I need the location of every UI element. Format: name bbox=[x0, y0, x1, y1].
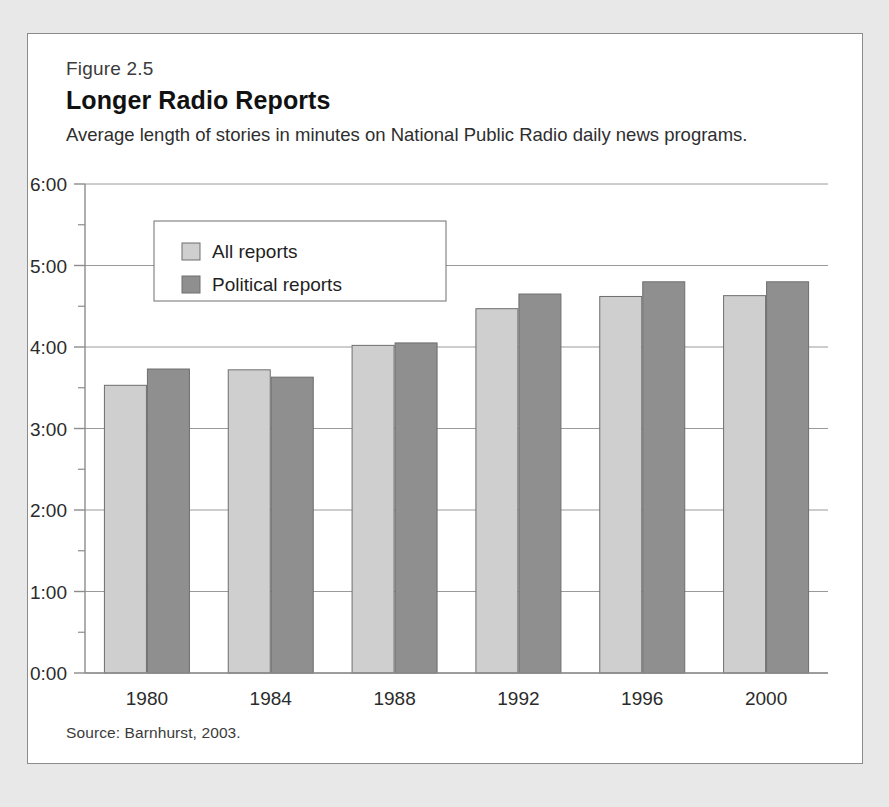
y-axis-tick-labels: 0:001:002:003:004:005:006:00 bbox=[30, 174, 67, 684]
legend-swatch bbox=[182, 243, 200, 260]
source-note: Source: Barnhurst, 2003. bbox=[66, 724, 241, 742]
y-axis-tick-label: 0:00 bbox=[30, 663, 67, 684]
x-axis-tick-labels: 198019841988199219962000 bbox=[126, 688, 787, 709]
x-axis-tick-label: 1992 bbox=[497, 688, 539, 709]
x-axis-tick-label: 1980 bbox=[126, 688, 168, 709]
bar-1992-political-reports bbox=[519, 294, 561, 673]
x-axis-tick-label: 2000 bbox=[745, 688, 787, 709]
x-axis-tick-label: 1988 bbox=[373, 688, 415, 709]
y-axis-tick-label: 2:00 bbox=[30, 500, 67, 521]
y-axis-tick-label: 4:00 bbox=[30, 337, 67, 358]
chart-legend: All reportsPolitical reports bbox=[154, 221, 446, 301]
bar-chart: 0:001:002:003:004:005:006:00 19801984198… bbox=[28, 34, 864, 765]
y-axis-tick-label: 5:00 bbox=[30, 256, 67, 277]
y-axis-major-ticks bbox=[74, 184, 85, 673]
bar-1992-all-reports bbox=[476, 309, 518, 673]
bar-1984-political-reports bbox=[271, 377, 313, 673]
x-axis-tick-label: 1984 bbox=[250, 688, 293, 709]
y-axis-tick-label: 6:00 bbox=[30, 174, 67, 195]
bar-1996-all-reports bbox=[600, 296, 642, 673]
bar-1984-all-reports bbox=[228, 370, 270, 673]
bar-2000-political-reports bbox=[767, 282, 809, 673]
legend-label: All reports bbox=[212, 241, 298, 262]
bar-1996-political-reports bbox=[643, 282, 685, 673]
figure-frame: Figure 2.5 Longer Radio Reports Average … bbox=[27, 33, 863, 764]
bar-1988-all-reports bbox=[352, 345, 394, 673]
legend-label: Political reports bbox=[212, 274, 342, 295]
y-axis-tick-label: 3:00 bbox=[30, 419, 67, 440]
chart-plot-area: 0:001:002:003:004:005:006:00 19801984198… bbox=[28, 34, 864, 765]
bar-1980-all-reports bbox=[104, 385, 146, 673]
chart-bars bbox=[104, 282, 808, 673]
bar-1980-political-reports bbox=[147, 369, 189, 673]
x-axis-tick-label: 1996 bbox=[621, 688, 663, 709]
y-axis-tick-label: 1:00 bbox=[30, 582, 67, 603]
bar-1988-political-reports bbox=[395, 343, 437, 673]
legend-swatch bbox=[182, 276, 200, 293]
bar-2000-all-reports bbox=[724, 296, 766, 673]
